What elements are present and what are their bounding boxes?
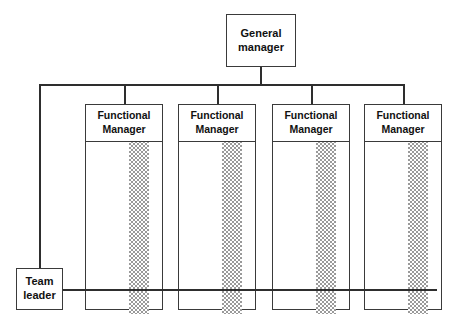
functional-column-body-3 [272,141,350,310]
team-leader-riser-connector [39,84,41,269]
org-chart-canvas: General manager Functional Manager Funct… [0,0,453,324]
manager-bus-connector [39,84,405,86]
functional-manager-box-2[interactable]: Functional Manager [178,104,256,142]
functional-manager-label-4-line2: Manager [381,123,424,137]
functional-column-body-2 [178,141,256,310]
team-leader-box[interactable]: Team leader [16,268,63,310]
functional-manager-box-3[interactable]: Functional Manager [272,104,350,142]
team-leader-label-line2: leader [23,289,55,303]
functional-manager-box-1[interactable]: Functional Manager [85,104,163,142]
functional-manager-label-1-line2: Manager [102,123,145,137]
functional-manager-label-2-line1: Functional [190,109,243,123]
functional-manager-column-1[interactable]: Functional Manager [85,104,163,310]
functional-manager-box-4[interactable]: Functional Manager [364,104,442,142]
functional-manager-label-3-line2: Manager [289,123,332,137]
team-line-connector [62,289,437,291]
functional-manager-label-4-line1: Functional [376,109,429,123]
bus-drop-connector-4 [403,84,405,105]
general-manager-stem-connector [260,67,262,85]
functional-column-body-4 [364,141,442,310]
bus-drop-connector-2 [217,84,219,105]
functional-manager-label-1-line1: Functional [97,109,150,123]
general-manager-label-line1: General [241,27,282,41]
functional-manager-column-2[interactable]: Functional Manager [178,104,256,310]
functional-manager-label-3-line1: Functional [284,109,337,123]
bus-drop-connector-1 [124,84,126,105]
general-manager-box[interactable]: General manager [226,14,296,67]
general-manager-label-line2: manager [238,41,284,55]
team-leader-label-line1: Team [26,275,54,289]
functional-column-body-1 [85,141,163,310]
functional-manager-label-2-line2: Manager [195,123,238,137]
bus-drop-connector-3 [311,84,313,105]
functional-manager-column-4[interactable]: Functional Manager [364,104,442,310]
functional-manager-column-3[interactable]: Functional Manager [272,104,350,310]
